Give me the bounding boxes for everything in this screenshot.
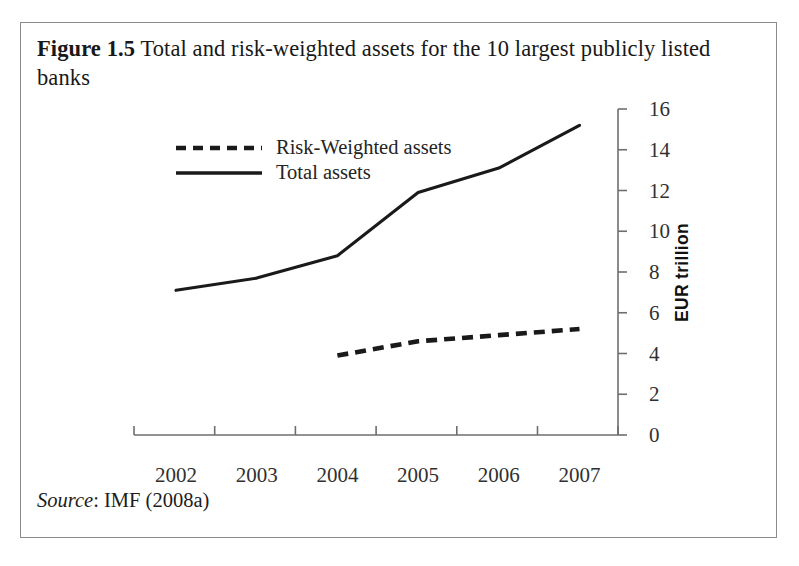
y-tick-label: 12 [649,178,670,203]
y-tick-label: 0 [649,423,660,448]
figure-frame: Figure 1.5 Total and risk-weighted asset… [20,22,777,538]
y-tick-label: 6 [649,300,660,325]
y-tick-label: 4 [649,341,660,366]
source-value: : IMF (2008a) [93,489,209,511]
y-tick-label: 8 [649,260,660,285]
legend-item: Risk-Weighted assets [176,135,451,160]
series-line-1 [337,329,579,355]
x-tick-label: 2007 [559,463,601,488]
y-axis-title: EUR trillion [672,223,693,322]
y-tick-label: 16 [649,97,670,122]
x-tick-label: 2005 [397,463,439,488]
y-tick-label: 14 [649,137,670,162]
legend-label: Risk-Weighted assets [276,136,451,159]
legend-dashed-line-icon [176,141,262,155]
x-tick-label: 2006 [478,463,520,488]
legend-label: Total assets [276,161,371,184]
legend-solid-line-icon [176,166,262,180]
source-note: Source: IMF (2008a) [37,489,209,512]
source-label: Source [37,489,93,511]
y-tick-label: 2 [649,382,660,407]
chart-legend: Risk-Weighted assetsTotal assets [176,135,451,185]
x-tick-label: 2002 [155,463,197,488]
x-tick-label: 2003 [236,463,278,488]
x-tick-label: 2004 [316,463,358,488]
y-tick-label: 10 [649,219,670,244]
legend-item: Total assets [176,160,451,185]
chart-plot-area: 1614121086420 200220032004200520062007 E… [21,23,778,539]
